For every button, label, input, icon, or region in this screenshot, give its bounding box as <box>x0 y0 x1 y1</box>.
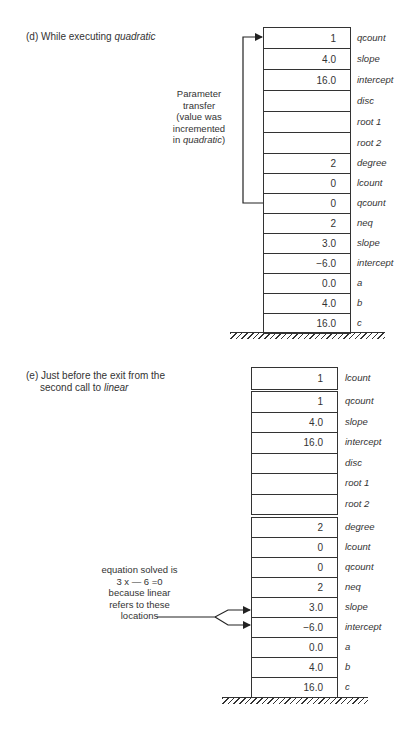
reference-arrow-icon <box>157 610 250 617</box>
arrows-layer <box>0 0 405 738</box>
parameter-transfer-arrow-icon <box>243 37 263 203</box>
reference-arrow-icon <box>215 617 250 625</box>
